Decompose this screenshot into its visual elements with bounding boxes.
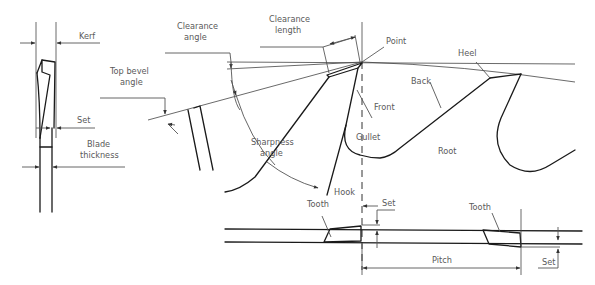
label-tooth-left: Tooth <box>306 199 329 209</box>
label-clearance-length-1: Clearance <box>269 14 310 24</box>
label-hook: Hook <box>334 187 355 197</box>
label-heel: Heel <box>458 48 477 58</box>
label-kerf: Kerf <box>79 31 96 41</box>
label-blade-thickness-2: thickness <box>80 150 119 160</box>
label-tooth-right: Tooth <box>468 202 491 212</box>
label-root: Root <box>438 146 457 156</box>
side-view <box>20 22 125 212</box>
top-view <box>225 209 582 275</box>
label-set-top: Set <box>382 198 396 208</box>
label-back: Back <box>411 76 431 86</box>
front-leader <box>357 90 372 118</box>
label-top-bevel-2: angle <box>120 77 143 87</box>
label-set-side: Set <box>77 115 91 125</box>
label-gullet: Gullet <box>356 132 381 142</box>
label-point: Point <box>386 36 407 46</box>
saw-tooth-diagram: Kerf Set Blade thickness <box>0 0 595 285</box>
label-clearance-length-2: length <box>275 25 301 35</box>
label-blade-thickness-1: Blade <box>87 139 110 149</box>
label-sharpness-2: angle <box>260 148 283 158</box>
label-top-bevel-1: Top bevel <box>109 66 149 76</box>
label-front: Front <box>374 102 395 112</box>
back-leader <box>430 82 441 108</box>
label-clearance-angle-2: angle <box>184 32 207 42</box>
label-pitch: Pitch <box>432 255 452 265</box>
label-sharpness-1: Sharpness <box>251 137 294 147</box>
dimensions <box>100 35 378 206</box>
label-clearance-angle-1: Clearance <box>177 21 218 31</box>
label-set-bottom: Set <box>542 257 556 267</box>
